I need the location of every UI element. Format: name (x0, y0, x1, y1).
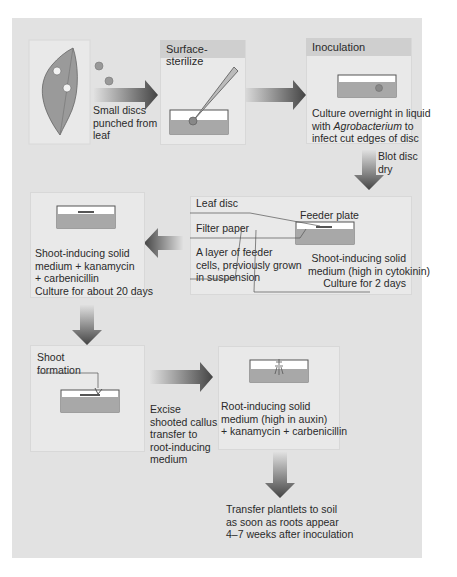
arrow-root-to-soil (265, 452, 295, 498)
disc-icon (95, 62, 103, 70)
excise-caption: Exciseshooted callus,transfer toroot-ind… (150, 403, 220, 466)
shoot-formation-dish (35, 370, 125, 430)
liquid-culture-dish (333, 72, 403, 102)
arrow-formation-to-root (150, 362, 213, 392)
arrow-shoot-to-formation (72, 305, 102, 345)
forceps-dish-icon (160, 55, 245, 145)
feeder-caption: Shoot-inducing solidmedium (high in cyto… (308, 252, 406, 290)
root-medium-caption: Root-inducing solidmedium (high in auxin… (221, 400, 347, 438)
inoculation-caption: Culture overnight in liquid with Agrobac… (312, 107, 430, 145)
disc-icon (105, 77, 113, 85)
blot-caption: Blot discdry (378, 150, 418, 175)
shoot-medium-dish (52, 202, 122, 232)
arrow-sterilize-to-inoculation (243, 80, 306, 110)
leaf-caption: Small discspunched fromleaf (93, 104, 157, 142)
inoculation-title: Inoculation (306, 38, 411, 56)
root-medium-dish (245, 357, 315, 387)
shoot-medium-caption: Shoot-inducing solidmedium + kanamycin+ … (35, 247, 153, 297)
transfer-caption: Transfer plantlets to soilas soon as roo… (226, 503, 353, 541)
